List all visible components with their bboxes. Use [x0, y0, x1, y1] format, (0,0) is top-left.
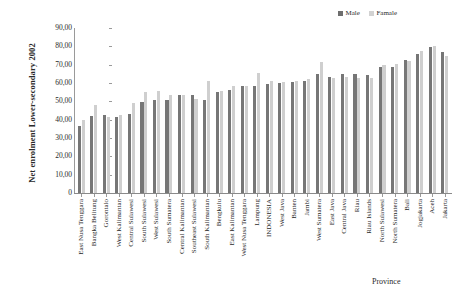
- bar-female: [420, 51, 423, 193]
- bar-group: [263, 28, 276, 193]
- x-axis-title: Province: [372, 277, 400, 286]
- x-label-cell: Bengkulu: [213, 199, 226, 279]
- bar-female: [182, 95, 185, 193]
- bar-female: [295, 81, 298, 193]
- bar-male: [391, 67, 394, 194]
- y-axis-ticks: 90,0080,0070,0060,0050,0040,0030,0020,00…: [38, 28, 72, 194]
- x-label-cell: Central Sulawesi: [125, 199, 138, 279]
- y-tick-label: 20,00: [55, 153, 72, 161]
- bar-female: [94, 105, 97, 193]
- legend-label-female: Famale: [376, 10, 397, 17]
- x-label-cell: Bali: [401, 199, 414, 279]
- x-label-cell: Riau Islands: [363, 199, 376, 279]
- bar-male: [241, 86, 244, 193]
- x-label-cell: West Nusa Tenggara: [238, 199, 251, 279]
- x-label-cell: West Kalimantan: [113, 199, 126, 279]
- x-tick-label: Aceh: [429, 199, 436, 214]
- y-axis-title: Net enrolment Lower-secondary 2002: [27, 28, 37, 198]
- x-tick-mark: [238, 194, 251, 198]
- bar-group: [225, 28, 238, 193]
- bar-female: [132, 103, 135, 193]
- bar-female: [407, 61, 410, 193]
- x-tick-mark: [401, 194, 414, 198]
- x-tick-label: INDONESIA: [266, 199, 273, 237]
- bar-group: [188, 28, 201, 193]
- x-axis-labels: East Nusa TenggaraBangka BelitungGoronta…: [75, 199, 451, 279]
- x-tick-mark: [426, 194, 439, 198]
- x-tick-label: South Sulawesi: [140, 199, 147, 242]
- x-tick-mark: [113, 194, 126, 198]
- bar-group: [363, 28, 376, 193]
- bar-male: [278, 83, 281, 193]
- x-tick-mark: [438, 194, 451, 198]
- bar-male: [203, 100, 206, 194]
- x-tick-label: Southeast Sulawesi: [191, 199, 198, 253]
- x-tick-label: North Sulawesi: [379, 199, 386, 242]
- y-tick-label: 90,00: [55, 24, 72, 32]
- bar-group: [426, 28, 439, 193]
- x-label-cell: Lampung: [250, 199, 263, 279]
- bar-male: [191, 95, 194, 193]
- bar-group: [150, 28, 163, 193]
- x-label-cell: South Sumatera: [163, 199, 176, 279]
- bar-group: [163, 28, 176, 193]
- x-tick-mark: [351, 194, 364, 198]
- bar-female: [382, 65, 385, 193]
- x-label-cell: Jambi: [301, 199, 314, 279]
- x-label-cell: Southeast Sulawesi: [188, 199, 201, 279]
- bar-group: [413, 28, 426, 193]
- bar-male: [366, 75, 369, 193]
- x-tick-mark: [376, 194, 389, 198]
- x-tick-mark: [150, 194, 163, 198]
- bar-male: [266, 84, 269, 193]
- x-tick-label: Jakarta: [441, 199, 448, 219]
- bar-female: [307, 79, 310, 193]
- y-tick-label: 0: [68, 189, 72, 197]
- y-tick-label: 60,00: [55, 79, 72, 87]
- x-tick-mark: [175, 194, 188, 198]
- bar-male: [115, 117, 118, 193]
- legend-label-male: Male: [346, 10, 360, 17]
- x-label-cell: South Kalimantan: [200, 199, 213, 279]
- bar-male: [153, 100, 156, 194]
- bar-group: [100, 28, 113, 193]
- legend-swatch-female-icon: [369, 11, 374, 16]
- x-tick-mark: [163, 194, 176, 198]
- bar-female: [107, 117, 110, 193]
- x-tick-mark: [100, 194, 113, 198]
- x-axis-ticks: [75, 194, 451, 198]
- bar-female: [257, 73, 260, 193]
- y-tick-label: 40,00: [55, 116, 72, 124]
- bar-male: [353, 74, 356, 193]
- x-tick-label: North Sumatera: [391, 199, 398, 244]
- x-label-cell: South Sulawesi: [138, 199, 151, 279]
- bar-male: [228, 90, 231, 193]
- x-tick-label: Banten: [291, 199, 298, 219]
- bar-group: [213, 28, 226, 193]
- x-label-cell: Riau: [351, 199, 364, 279]
- x-tick-mark: [413, 194, 426, 198]
- bar-male: [316, 74, 319, 193]
- x-tick-mark: [288, 194, 301, 198]
- bar-group: [138, 28, 151, 193]
- bar-male: [291, 82, 294, 193]
- x-label-cell: Bangka Belitung: [88, 199, 101, 279]
- x-tick-label: Gorontalo: [103, 199, 110, 227]
- bar-group: [351, 28, 364, 193]
- x-tick-label: Bengkulu: [216, 199, 223, 226]
- legend-entry-female: Famale: [369, 10, 397, 17]
- bar-male: [140, 102, 143, 193]
- bar-group: [276, 28, 289, 193]
- bar-male: [341, 74, 344, 193]
- bar-male: [165, 100, 168, 194]
- bar-female: [119, 115, 122, 193]
- x-tick-mark: [276, 194, 289, 198]
- bar-group: [438, 28, 451, 193]
- bar-male: [379, 67, 382, 193]
- x-label-cell: Central Kalimantan: [175, 199, 188, 279]
- bar-female: [169, 95, 172, 193]
- bar-group: [125, 28, 138, 193]
- bar-male: [429, 47, 432, 193]
- x-tick-mark: [88, 194, 101, 198]
- bar-female: [144, 92, 147, 193]
